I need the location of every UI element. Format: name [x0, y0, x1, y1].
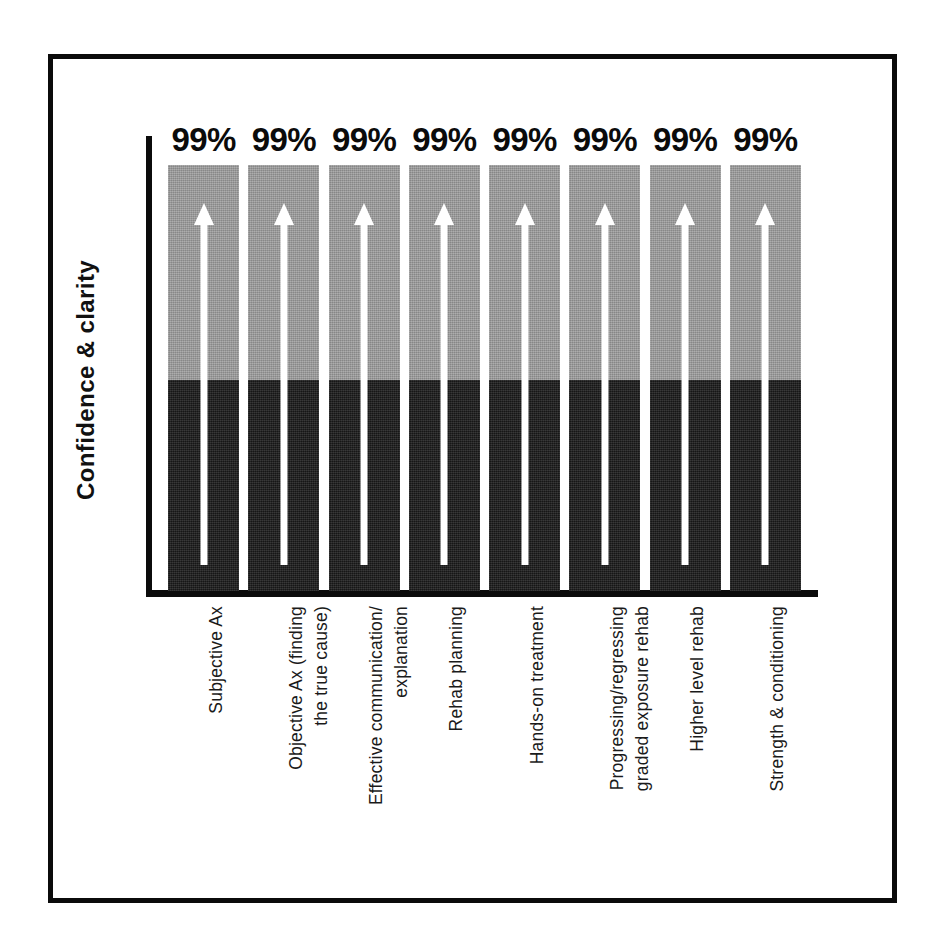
x-axis-tick-labels: Subjective Ax Objective Ax (finding the …: [168, 606, 801, 876]
x-tick-label: Strength & conditioning: [765, 606, 790, 792]
x-tick-label-slot: Strength & conditioning: [730, 606, 801, 876]
x-axis-line: [146, 590, 818, 597]
bar-column: [650, 165, 721, 591]
value-label: 99%: [489, 123, 560, 156]
x-tick-label-slot: Objective Ax (finding the true cause): [248, 606, 319, 876]
bar-column: [168, 165, 239, 591]
x-tick-label-slot: Effective communication/ explanation: [329, 606, 400, 876]
value-label: 99%: [409, 123, 480, 156]
value-label: 99%: [569, 123, 640, 156]
value-label: 99%: [168, 123, 239, 156]
arrow-up-icon: [595, 203, 615, 565]
bar-column: [569, 165, 640, 591]
x-tick-label-slot: Subjective Ax: [168, 606, 239, 876]
y-axis-label: Confidence & clarity: [72, 260, 100, 500]
value-label: 99%: [248, 123, 319, 156]
arrow-up-icon: [194, 203, 214, 565]
bar-column: [409, 165, 480, 591]
y-axis-line: [146, 136, 152, 596]
value-label: 99%: [329, 123, 400, 156]
x-tick-label: Hands-on treatment: [525, 606, 550, 764]
x-tick-label: Effective communication/ explanation: [364, 606, 414, 805]
value-label: 99%: [730, 123, 801, 156]
arrow-up-icon: [274, 203, 294, 565]
y-axis-label-container: Confidence & clarity: [64, 180, 108, 580]
x-tick-label: Progressing/regressing graded exposure r…: [605, 606, 655, 791]
x-tick-label-slot: Progressing/regressing graded exposure r…: [569, 606, 640, 876]
bar-column: [248, 165, 319, 591]
x-tick-label: Objective Ax (finding the true cause): [284, 606, 334, 770]
x-tick-label-slot: Rehab planning: [409, 606, 480, 876]
bar-series: [168, 165, 801, 591]
poster-canvas: Confidence & clarity 99% 99% 99% 99% 99%…: [0, 0, 948, 948]
bar-column: [730, 165, 801, 591]
x-tick-label-slot: Higher level rehab: [650, 606, 721, 876]
bar-chart: Confidence & clarity 99% 99% 99% 99% 99%…: [0, 0, 948, 948]
arrow-up-icon: [515, 203, 535, 565]
value-label: 99%: [650, 123, 721, 156]
arrow-up-icon: [354, 203, 374, 565]
x-tick-label: Higher level rehab: [685, 606, 710, 752]
arrow-up-icon: [434, 203, 454, 565]
bar-column: [489, 165, 560, 591]
x-tick-label-slot: Hands-on treatment: [489, 606, 560, 876]
value-label-row: 99% 99% 99% 99% 99% 99% 99% 99%: [168, 110, 801, 156]
arrow-up-icon: [755, 203, 775, 565]
x-tick-label: Subjective Ax: [204, 606, 229, 714]
arrow-up-icon: [675, 203, 695, 565]
x-tick-label: Rehab planning: [444, 606, 469, 731]
bar-column: [329, 165, 400, 591]
